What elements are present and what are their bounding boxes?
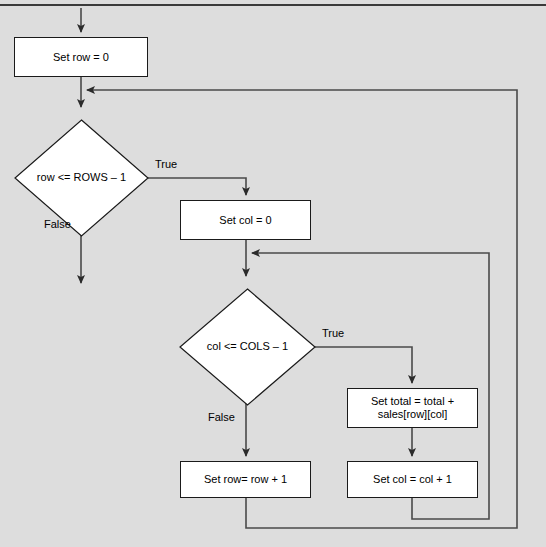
process-set-row-increment: Set row= row + 1 xyxy=(180,461,311,498)
process-set-col-0: Set col = 0 xyxy=(180,200,311,240)
process-set-row-0-label: Set row = 0 xyxy=(53,51,109,64)
process-set-col-increment: Set col = col + 1 xyxy=(347,461,478,498)
edge-col-condition-true xyxy=(315,347,412,383)
decision-row-condition xyxy=(15,120,148,236)
flowchart-page: Set row = 0 Set col = 0 Set total = tota… xyxy=(0,0,546,547)
process-set-col-increment-label: Set col = col + 1 xyxy=(373,473,452,486)
process-set-row-0: Set row = 0 xyxy=(14,37,148,77)
decision-col-condition xyxy=(180,289,315,405)
process-set-total-label: Set total = total + sales[row][col] xyxy=(371,395,454,421)
process-set-total: Set total = total + sales[row][col] xyxy=(347,388,478,428)
process-set-col-0-label: Set col = 0 xyxy=(219,214,271,227)
edge-row-condition-true xyxy=(148,178,246,195)
process-set-row-increment-label: Set row= row + 1 xyxy=(204,473,287,486)
